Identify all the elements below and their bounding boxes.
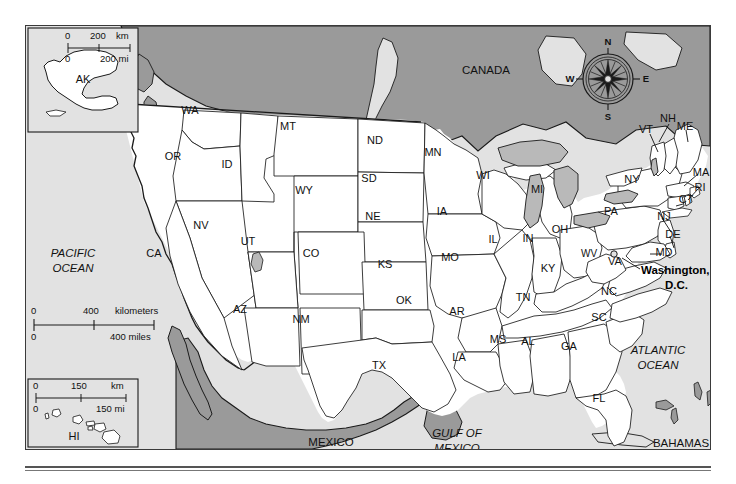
state-ND	[358, 119, 425, 173]
main-scale-top-unit: kilometers	[115, 305, 159, 316]
state-label-MD: MD	[655, 246, 672, 258]
main-scale-bottom-zero: 0	[31, 331, 36, 342]
state-label-ID: ID	[222, 158, 233, 170]
island-niihau	[45, 413, 49, 419]
state-label-NE: NE	[365, 210, 380, 222]
alaska-scale-top-unit: km	[116, 30, 129, 41]
state-label-MA: MA	[693, 166, 710, 178]
state-label-ND: ND	[367, 134, 383, 146]
map-frame: CANADA MEXICO BAHAMAS PACIFIC OCEAN ATLA…	[25, 25, 711, 450]
state-label-FL: FL	[593, 392, 606, 404]
hawaii-inset: 0 150 km 0 150 mi HI	[28, 379, 138, 447]
state-label-KS: KS	[378, 258, 393, 270]
hawaii-scale-bottom-label: 150 mi	[96, 403, 125, 414]
ocean-label-pacific-line2: OCEAN	[53, 262, 95, 274]
main-scale-top-zero: 0	[31, 305, 36, 316]
main-scale-top-mid: 400	[83, 305, 99, 316]
state-label-MI: MI	[531, 183, 543, 195]
state-label-KY: KY	[541, 262, 556, 274]
state-label-LA: LA	[452, 351, 466, 363]
bahamas-island-4	[707, 390, 710, 406]
state-label-WV: WV	[581, 248, 597, 259]
ocean-label-gulf-line1: GULF OF	[432, 427, 483, 439]
state-label-MT: MT	[280, 120, 296, 132]
state-label-NC: NC	[601, 285, 617, 297]
state-NE	[358, 222, 426, 262]
state-label-NH: NH	[660, 112, 676, 124]
alaska-inset: AK 0 200 km 0 200 mi	[28, 28, 138, 132]
state-label-AL: AL	[521, 335, 534, 347]
state-label-NM: NM	[292, 313, 309, 325]
main-scale-bottom-label: 400 miles	[110, 331, 151, 342]
country-label-canada: CANADA	[462, 64, 510, 76]
country-label-mexico: MEXICO	[308, 436, 353, 448]
city-label-washington-line1: Washington,	[641, 264, 710, 276]
state-label-WY: WY	[295, 184, 313, 196]
ocean-label-gulf-line2: MEXICO	[434, 442, 479, 449]
state-label-IA: IA	[437, 205, 448, 217]
compass-label-east: E	[643, 73, 649, 84]
state-label-OH: OH	[552, 223, 569, 235]
hawaii-scale-top-zero: 0	[33, 380, 38, 391]
state-label-CA: CA	[146, 247, 162, 259]
dc-marker	[611, 251, 617, 257]
state-label-AZ: AZ	[233, 303, 247, 315]
state-label-SD: SD	[361, 172, 376, 184]
ocean-label-atlantic-line2: OCEAN	[638, 359, 680, 371]
state-label-IN: IN	[523, 232, 534, 244]
alaska-scale-top-zero: 0	[65, 30, 70, 41]
state-label-AK: AK	[76, 73, 91, 85]
island-lanai	[88, 426, 93, 430]
alaska-scale-bottom-zero: 0	[65, 53, 70, 64]
state-label-UT: UT	[241, 235, 256, 247]
state-label-TX: TX	[372, 359, 387, 371]
state-label-TN: TN	[516, 291, 531, 303]
state-label-ME: ME	[677, 120, 694, 132]
state-label-HI: HI	[69, 430, 80, 442]
state-label-NV: NV	[193, 219, 209, 231]
state-label-RI: RI	[695, 181, 706, 193]
state-label-DE: DE	[665, 228, 680, 240]
state-label-CT: CT	[679, 193, 694, 205]
hawaii-scale-top-unit: km	[111, 380, 124, 391]
bottom-rule-thick	[25, 466, 711, 468]
state-label-GA: GA	[561, 340, 578, 352]
state-label-MS: MS	[490, 333, 507, 345]
state-label-AR: AR	[449, 305, 464, 317]
state-label-OK: OK	[396, 294, 413, 306]
ocean-label-pacific-line1: PACIFIC	[51, 247, 96, 259]
hawaii-scale-top-mid: 150	[71, 380, 87, 391]
state-label-MO: MO	[441, 251, 459, 263]
country-label-bahamas: BAHAMAS	[653, 437, 710, 449]
state-label-CO: CO	[303, 247, 320, 259]
bottom-rule-thin	[25, 470, 711, 471]
state-label-IL: IL	[488, 233, 497, 245]
hawaii-scale-bottom-zero: 0	[33, 403, 38, 414]
state-KS	[362, 262, 428, 310]
alaska-scale-top-mid: 200	[90, 30, 106, 41]
map-page: CANADA MEXICO BAHAMAS PACIFIC OCEAN ATLA…	[0, 0, 736, 484]
state-label-WI: WI	[476, 169, 489, 181]
state-CO	[298, 232, 366, 294]
alaska-scale-bottom-label: 200 mi	[100, 53, 129, 64]
city-label-washington-line2: D.C.	[665, 279, 688, 291]
state-label-MN: MN	[424, 146, 441, 158]
state-label-PA: PA	[604, 205, 619, 217]
state-label-VT: VT	[639, 123, 653, 135]
state-label-NJ: NJ	[657, 210, 670, 222]
compass-label-south: S	[605, 111, 611, 122]
state-label-OR: OR	[165, 150, 182, 162]
state-label-SC: SC	[591, 311, 606, 323]
us-reference-map: CANADA MEXICO BAHAMAS PACIFIC OCEAN ATLA…	[26, 26, 710, 449]
state-label-WA: WA	[181, 104, 199, 116]
ocean-label-atlantic-line1: ATLANTIC	[630, 344, 686, 356]
state-label-NY: NY	[624, 173, 640, 185]
island-molokai	[86, 421, 95, 426]
compass-label-north: N	[605, 36, 612, 47]
compass-label-west: W	[566, 73, 575, 84]
